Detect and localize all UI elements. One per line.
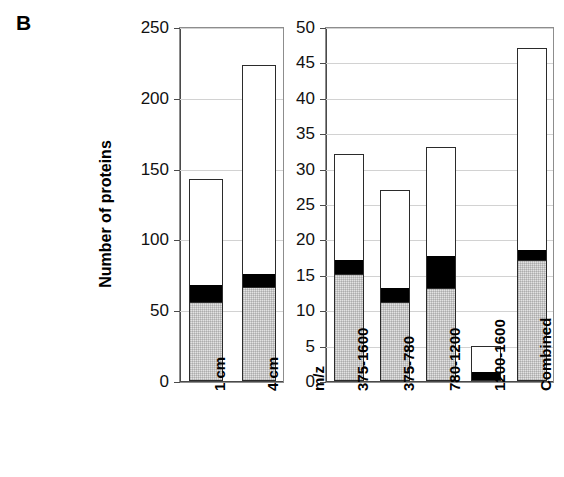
x-tick-label-combined: Combined — [538, 318, 553, 391]
right-chart-y-tick — [320, 134, 326, 135]
right-chart-y-tick-label: 30 — [255, 161, 315, 178]
x-tick-label-375-1600: 375-1600 — [355, 328, 370, 391]
bar-segment-black — [335, 260, 363, 274]
bar-segment-black — [190, 285, 222, 302]
x-tick-label-780-1200: 780-1200 — [447, 328, 462, 391]
left-chart-y-tick — [174, 382, 180, 383]
x-tick-label-1-cm: 1 cm — [212, 357, 227, 391]
right-chart-y-tick — [320, 28, 326, 29]
left-chart-y-tick — [174, 240, 180, 241]
panel-letter: B — [16, 12, 31, 33]
right-chart-y-tick-label: 25 — [255, 196, 315, 213]
left-chart-y-tick — [174, 28, 180, 29]
right-chart-y-tick — [320, 170, 326, 171]
x-tick-label-375-780: 375-780 — [401, 336, 416, 391]
right-chart-y-tick — [320, 205, 326, 206]
bar-segment-black — [427, 256, 455, 288]
right-chart-y-tick — [320, 311, 326, 312]
right-chart-y-tick-label: 15 — [255, 267, 315, 284]
x-tick-label-1200-1600: 1200-1600 — [492, 319, 507, 391]
bar-4-cm[interactable] — [242, 65, 276, 381]
right-chart-y-tick — [320, 276, 326, 277]
right-chart-y-tick-label: 0 — [255, 373, 315, 390]
right-chart-y-tick-label: 50 — [255, 19, 315, 36]
right-chart-y-tick — [320, 347, 326, 348]
right-chart-y-tick-label: 45 — [255, 54, 315, 71]
right-chart-y-tick-label: 35 — [255, 125, 315, 142]
left-chart-y-tick-label: 50 — [109, 302, 169, 319]
bar-segment-black — [518, 250, 546, 259]
right-chart-y-tick — [320, 240, 326, 241]
right-chart-y-tick — [320, 99, 326, 100]
left-chart-y-tick-label: 250 — [109, 19, 169, 36]
right-chart-gridline — [326, 28, 553, 29]
left-chart-y-tick — [174, 99, 180, 100]
right-chart-y-tick-label: 5 — [255, 338, 315, 355]
right-chart-y-tick-label: 20 — [255, 231, 315, 248]
left-chart-y-tick-label: 0 — [109, 373, 169, 390]
bar-segment-black — [381, 288, 409, 302]
right-chart-y-tick — [320, 63, 326, 64]
left-chart-y-tick-label: 200 — [109, 90, 169, 107]
left-chart-y-tick — [174, 311, 180, 312]
left-chart-y-tick — [174, 170, 180, 171]
y-axis-title: Number of proteins — [97, 99, 115, 329]
figure-panel-b: B Number of proteins m/z 050100150200250… — [0, 0, 564, 477]
left-chart-y-spine — [180, 28, 181, 382]
right-chart-y-tick-label: 40 — [255, 90, 315, 107]
left-chart-y-tick-label: 100 — [109, 231, 169, 248]
right-chart-y-tick-label: 10 — [255, 302, 315, 319]
left-chart-y-tick-label: 150 — [109, 161, 169, 178]
bar-1-cm[interactable] — [189, 179, 223, 381]
